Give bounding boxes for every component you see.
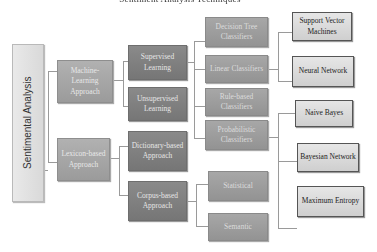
root-label: Sentimental Analysis <box>21 77 35 169</box>
connector <box>194 138 205 139</box>
connector <box>194 41 205 42</box>
node-rule-based-classifiers: Rule-based Classifiers <box>205 88 268 116</box>
node-probabilistic-classifiers: Probabilistic Classifiers <box>205 120 268 150</box>
node-machine-learning-approach: Machine-Learning Approach <box>57 60 113 103</box>
connector <box>278 32 292 33</box>
connector <box>48 71 57 72</box>
root-node-sentimental-analysis: Sentimental Analysis <box>12 44 44 202</box>
connector <box>123 61 124 107</box>
connector <box>194 69 205 70</box>
connector <box>268 69 278 70</box>
diagram-title: Sentiment Analysis Techniques <box>60 0 300 4</box>
node-semantic: Semantic <box>208 213 268 241</box>
connector <box>268 137 278 138</box>
node-unsupervised-learning: Unsupervised Learning <box>128 87 187 121</box>
connector <box>110 158 119 159</box>
node-linear-classifiers: Linear Classifiers <box>205 55 268 83</box>
connector <box>119 146 128 147</box>
node-supervised-learning: Supervised Learning <box>128 45 187 80</box>
connector <box>119 195 128 196</box>
node-dictionary-based-approach: Dictionary-based Approach <box>128 131 187 171</box>
node-corpus-based-approach: Corpus-based Approach <box>128 181 187 221</box>
node-lexicon-based-approach: Lexicon-based Approach <box>57 138 110 181</box>
connector <box>278 228 297 229</box>
node-decision-tree-classifiers: Decision Tree Classifiers <box>205 17 268 47</box>
connector <box>196 226 208 227</box>
connector <box>187 62 194 63</box>
connector <box>278 113 279 229</box>
node-support-vector-machines: Support Vector Machines <box>292 12 352 41</box>
node-statistical: Statistical <box>208 171 268 201</box>
connector <box>187 201 196 202</box>
connector <box>278 161 297 162</box>
connector <box>48 162 57 163</box>
connector <box>194 41 195 139</box>
connector <box>278 81 292 82</box>
connector <box>113 80 123 81</box>
connector <box>196 184 197 227</box>
connector <box>44 170 48 171</box>
connector <box>196 184 208 185</box>
connector <box>48 71 49 163</box>
node-maximum-entropy: Maximum Entropy <box>297 186 364 217</box>
connector <box>119 146 120 195</box>
node-neural-network: Neural Network <box>292 56 354 87</box>
connector <box>278 32 279 82</box>
connector <box>278 113 295 114</box>
connector <box>194 106 205 107</box>
node-naive-bayes: Naive Bayes <box>295 100 353 127</box>
node-bayesian-network: Bayesian Network <box>297 143 359 172</box>
